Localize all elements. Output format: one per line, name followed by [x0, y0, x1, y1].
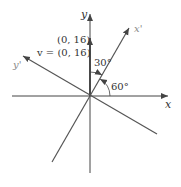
x-prime-label: x'	[134, 24, 142, 34]
angle-label-30: 30°	[94, 58, 112, 68]
rotated-axes-diagram: y x x' y' (0, 16) v = (0, 16) 30° 60°	[0, 0, 181, 187]
x-axis-label: x	[165, 99, 171, 110]
angle-label-60: 60°	[111, 82, 129, 92]
y-axis-label: y	[81, 9, 87, 20]
vector-label: v = (0, 16)	[37, 48, 91, 58]
point-label: (0, 16)	[57, 35, 90, 45]
angle-arc-30	[90, 72, 102, 75]
y-prime-label: y'	[13, 60, 21, 70]
diagram-graphics	[0, 0, 181, 187]
angle-arc-60	[100, 79, 110, 96]
